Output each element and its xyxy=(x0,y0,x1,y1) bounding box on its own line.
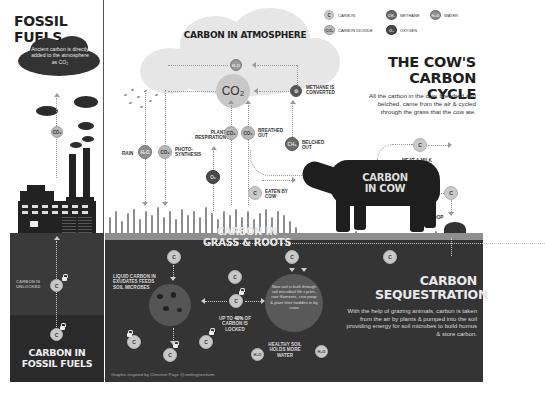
arrow-up-icon xyxy=(290,100,296,104)
soil-section: CARBON IN GRASS & ROOTS C LIQUID CARBON … xyxy=(105,240,483,382)
arrow-right-icon xyxy=(292,177,296,183)
h2o-molecule: H₂O xyxy=(251,348,264,361)
sequestration-description: With the help of grazing animals, carbon… xyxy=(345,308,477,338)
sequestration-title: CARBON SEQUESTRATION xyxy=(375,274,477,302)
arrow-right-icon xyxy=(448,142,452,148)
photosynthesis-co2: CO₂ xyxy=(158,145,172,159)
photosynthesis-label: PHOTO-SYNTHESIS xyxy=(175,147,205,158)
carbon-in-fossil-fuels-title: CARBON IN FOSSIL FUELS xyxy=(10,347,104,369)
legend-co2-label: CARBON DIOXIDE xyxy=(338,28,373,33)
padlock-icon xyxy=(127,333,132,337)
dotted-path xyxy=(231,105,232,205)
carbon-molecule: C xyxy=(167,250,181,264)
legend-oxygen-label: OXYGEN xyxy=(400,28,417,33)
carbon-molecule: C xyxy=(228,270,242,284)
dotted-path xyxy=(428,145,448,146)
carbon-molecule: C xyxy=(229,294,243,308)
methane-converted-label: METHANE IS CONVERTED xyxy=(306,85,342,96)
breathed-out-label: BREATHED OUT xyxy=(258,128,286,139)
dotted-path xyxy=(245,301,261,302)
plant-respiration-label: PLANT RESPIRATION xyxy=(184,130,226,141)
atmosphere-title: CARBON IN ATMOSPHERE xyxy=(180,30,310,40)
eaten-carbon: C xyxy=(248,186,262,200)
factory-icon xyxy=(10,185,104,233)
soil-microbes-circle xyxy=(149,284,191,326)
dotted-path xyxy=(205,301,227,302)
arrow-down-icon xyxy=(170,341,176,345)
rain-h2o: H₂O xyxy=(138,145,152,159)
smoke-puff xyxy=(78,122,94,130)
fossil-fuels-panel: FOSSIL FUELS Ancient carbon is directly … xyxy=(10,0,104,382)
legend: C CARBON CH₄ METHANE H₂O WATER CO₂ CARBO… xyxy=(322,8,482,38)
unlocked-label: CARBON IS UNLOCKED xyxy=(16,279,48,290)
dotted-path xyxy=(262,180,292,181)
co2-molecule: CO₂ xyxy=(51,126,63,138)
carbon-molecule: C xyxy=(127,335,141,349)
arrow-up-icon xyxy=(211,146,217,150)
carbon-molecule: C xyxy=(199,335,213,349)
liquid-carbon-label: LIQUID CARBON IN EXUDATES FEEDS SOIL MIC… xyxy=(113,274,159,290)
dotted-path xyxy=(451,238,452,256)
legend-methane-icon: CH₄ xyxy=(386,10,397,20)
dotted-path xyxy=(168,65,228,66)
new-soil-text: New soil is built through soil microbial… xyxy=(270,284,318,310)
dotted-path xyxy=(250,150,306,176)
meat-milk-carbon: C xyxy=(413,138,427,152)
breathed-out-co2: CO₂ xyxy=(241,126,255,140)
padlock-icon xyxy=(239,291,244,295)
dotted-path xyxy=(173,265,174,277)
padlock-icon xyxy=(60,326,65,330)
arrow-down-icon xyxy=(289,268,295,272)
fossil-cloud: Ancient carbon is directly added to the … xyxy=(18,36,100,78)
arrow-up-icon xyxy=(228,100,234,104)
arrow-up-icon xyxy=(54,236,60,240)
arrow-down-icon xyxy=(170,277,176,281)
fossil-underground: CARBON IS UNLOCKED C C CARBON IN FOSSIL … xyxy=(10,233,104,382)
dotted-path xyxy=(168,91,216,92)
atmosphere-h2o: H₂O xyxy=(230,59,242,71)
smoke-puff xyxy=(82,136,94,142)
smoke-puff xyxy=(36,106,58,116)
carbon-molecule: C xyxy=(50,279,63,292)
plant-respiration-co2: CO₂ xyxy=(224,126,238,140)
padlock-icon xyxy=(209,331,214,335)
fossil-cloud-text: Ancient carbon is directly added to the … xyxy=(30,46,90,65)
arrow-up-icon xyxy=(245,100,251,104)
new-soil-circle: New soil is built through soil microbial… xyxy=(265,274,323,332)
eaten-by-cow-label: EATEN BY COW xyxy=(265,189,291,200)
cow-cycle-description: All the carbon in the cow, breathed and … xyxy=(360,92,476,117)
dotted-path xyxy=(173,328,174,342)
carbon-molecule: C xyxy=(163,348,177,362)
arrow-left-icon xyxy=(252,62,256,68)
locked-carbon-label: UP TO 40% OF CARBON IS LOCKED xyxy=(215,316,255,332)
carbon-in-cow-title: CARBON IN COW xyxy=(350,172,420,194)
h2o-molecule: H₂O xyxy=(315,345,328,358)
dotted-path xyxy=(259,91,289,92)
legend-methane-label: METHANE xyxy=(400,13,420,18)
dotted-path xyxy=(56,98,57,178)
dotted-path xyxy=(297,65,298,85)
image-credit: Graphic inspired by Christine Page @smil… xyxy=(111,372,215,377)
belched-methane: CH₄ xyxy=(285,137,299,151)
legend-oxygen-icon: O₂ xyxy=(386,25,397,35)
carbon-molecule: C xyxy=(285,250,299,264)
atmosphere-cloud: CARBON IN ATMOSPHERE H₂O CO₂ ⚙ METHANE I… xyxy=(140,8,340,100)
grass-roots-title: CARBON IN GRASS & ROOTS xyxy=(197,226,297,248)
rain-label: RAIN xyxy=(122,151,133,156)
o2-molecule: O₂ xyxy=(206,170,220,184)
legend-water-icon: H₂O xyxy=(430,10,441,20)
unlocked-padlock-icon xyxy=(62,277,67,281)
dotted-path xyxy=(292,105,293,137)
smoke-puff xyxy=(74,96,98,108)
methane-converted-icon: ⚙ xyxy=(290,85,302,97)
arrow-up-icon xyxy=(54,93,60,97)
legend-water-label: WATER xyxy=(444,13,458,18)
poop-carbon: C xyxy=(444,186,458,200)
arrow-down-icon xyxy=(301,268,307,272)
carbon-molecule: C xyxy=(383,250,397,264)
legend-carbon-label: CARBON xyxy=(338,13,355,18)
smoke-puff xyxy=(70,142,82,148)
arrow-left-icon xyxy=(254,88,258,94)
dotted-path xyxy=(257,65,297,66)
healthy-soil-label: HEALTHY SOIL HOLDS MORE WATER xyxy=(263,342,307,358)
